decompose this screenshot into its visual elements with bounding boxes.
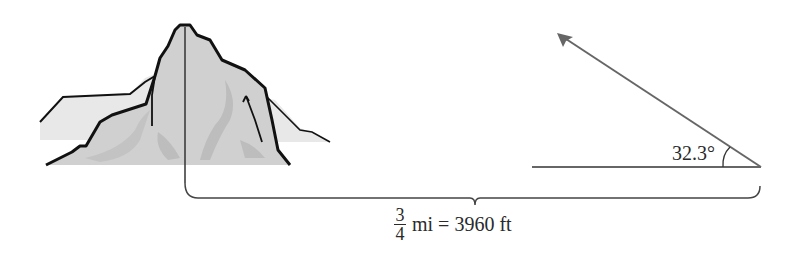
mountain <box>46 25 290 165</box>
diagram-canvas: 32.3° 3 4 mi = 3960 ft <box>0 0 799 265</box>
distance-label: 3 4 mi = 3960 ft <box>394 206 512 243</box>
fraction-numerator: 3 <box>396 206 405 224</box>
sight-line <box>563 37 761 167</box>
arrowhead-icon <box>557 33 573 47</box>
distance-text: mi = 3960 ft <box>412 213 512 236</box>
angle-arc <box>723 147 730 167</box>
fraction: 3 4 <box>394 206 406 243</box>
distance-brace <box>185 183 760 205</box>
fraction-denominator: 4 <box>396 225 405 243</box>
angle-label: 32.3° <box>672 142 715 165</box>
